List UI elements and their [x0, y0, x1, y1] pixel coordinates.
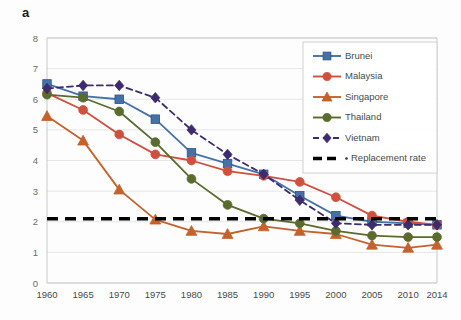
- data-point-marker: [323, 72, 331, 80]
- data-point-marker: [433, 233, 442, 242]
- data-point-marker: [368, 231, 377, 240]
- y-tick-label: 5: [33, 124, 38, 135]
- y-tick-label: 8: [33, 33, 38, 44]
- data-point-marker: [115, 107, 124, 116]
- data-point-marker: [331, 193, 340, 202]
- data-point-marker: [151, 138, 160, 147]
- x-tick-label: 1975: [145, 289, 166, 300]
- y-tick-label: 4: [33, 155, 38, 166]
- legend-label: Malaysia: [345, 70, 383, 81]
- data-point-marker: [223, 201, 232, 210]
- y-tick-label: 1: [33, 247, 38, 258]
- x-tick-label: 1995: [289, 289, 310, 300]
- x-tick-label: 2010: [398, 289, 419, 300]
- legend-label: Thailand: [345, 111, 381, 122]
- x-tick-label: 2000: [325, 289, 346, 300]
- x-tick-label: 2014: [426, 289, 447, 300]
- legend-label: Vietnam: [345, 132, 380, 143]
- y-tick-label: 6: [33, 94, 38, 105]
- data-point-marker: [223, 149, 232, 159]
- x-tick-label: 1960: [36, 289, 57, 300]
- y-axis-tick-labels: 012345678: [33, 33, 38, 289]
- data-point-marker: [115, 130, 124, 139]
- data-point-marker: [78, 135, 89, 145]
- x-axis-tick-labels: 1960196519701975198019851990199520002005…: [36, 289, 447, 300]
- x-tick-label: 1970: [109, 289, 130, 300]
- x-tick-label: 1990: [253, 289, 274, 300]
- x-tick-label: 1985: [217, 289, 238, 300]
- legend-label: Brunei: [345, 50, 372, 61]
- data-point-marker: [323, 52, 331, 60]
- figure-panel-a: a 012345678 1960196519701975198019851990…: [0, 0, 461, 320]
- y-tick-label: 7: [33, 63, 38, 74]
- data-point-marker: [151, 150, 160, 159]
- y-tick-label: 0: [33, 278, 38, 289]
- data-point-marker: [323, 113, 331, 121]
- data-point-marker: [79, 93, 88, 102]
- data-point-marker: [187, 156, 196, 165]
- data-point-marker: [79, 106, 88, 115]
- data-point-marker: [187, 174, 196, 183]
- y-tick-label: 2: [33, 216, 38, 227]
- data-point-marker: [42, 111, 53, 121]
- data-point-marker: [115, 80, 124, 90]
- data-point-marker: [295, 178, 304, 187]
- legend-label: Singapore: [345, 91, 388, 102]
- data-point-marker: [223, 167, 232, 176]
- data-point-marker: [79, 80, 88, 90]
- x-tick-label: 2005: [361, 289, 382, 300]
- y-tick-label: 3: [33, 186, 38, 197]
- data-point-marker: [151, 115, 160, 124]
- x-tick-label: 1980: [181, 289, 202, 300]
- data-point-marker: [404, 233, 413, 242]
- x-tick-label: 1965: [73, 289, 94, 300]
- line-chart: 012345678 196019651970197519801985199019…: [0, 0, 461, 320]
- legend-label: Replacement rate: [351, 152, 426, 163]
- legend-bullet: [345, 157, 348, 160]
- chart-legend: BruneiMalaysiaSingaporeThailandVietnamRe…: [303, 42, 437, 173]
- data-point-marker: [115, 95, 124, 104]
